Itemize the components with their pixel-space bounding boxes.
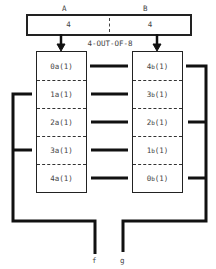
right-register-stack: 4b(1) 3b(1) 2b(1) 1b(1) 0b(1) (132, 51, 183, 193)
right-row-3: 1b(1) (133, 136, 182, 164)
left-row-3: 3a(1) (37, 136, 86, 164)
left-row-4: 4a(1) (37, 164, 86, 192)
left-row-1: 1a(1) (37, 80, 86, 108)
arrow-down-icon (153, 34, 161, 51)
left-row-2: 2a(1) (37, 108, 86, 136)
left-row-0: 0a(1) (37, 52, 86, 80)
right-row-2: 2b(1) (133, 108, 182, 136)
right-row-1: 3b(1) (133, 80, 182, 108)
right-row-0: 4b(1) (133, 52, 182, 80)
output-label-f: f (92, 256, 97, 265)
output-label-g: g (120, 256, 125, 265)
right-row-4: 0b(1) (133, 164, 182, 192)
arrow-down-icon (57, 34, 65, 51)
left-register-stack: 0a(1) 1a(1) 2a(1) 3a(1) 4a(1) (36, 51, 87, 193)
connection-lines (0, 0, 216, 269)
